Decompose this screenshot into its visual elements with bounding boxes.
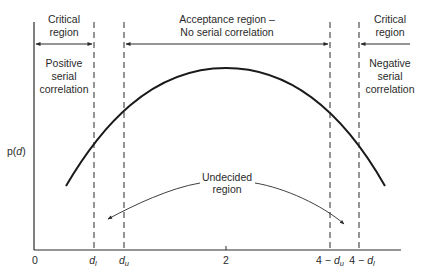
tick-label-two: 2 xyxy=(223,254,229,266)
left-critical-title-2: region xyxy=(49,26,78,38)
tick-label-dl: dl xyxy=(89,254,97,268)
tick-label-du: du xyxy=(119,254,130,268)
left-critical-title-1: Critical xyxy=(48,13,80,25)
y-axis-label: p(d) xyxy=(7,145,26,157)
tick-label-zero: 0 xyxy=(32,254,38,266)
right-critical-desc-1: Negative xyxy=(369,57,411,69)
tick-label-4-dl: 4 − dl xyxy=(349,254,375,268)
right-critical-desc-3: correlation xyxy=(365,83,414,95)
undecided-arrow-right xyxy=(255,183,344,224)
right-critical-title-2: region xyxy=(375,26,404,38)
acceptance-title-2: No serial correlation xyxy=(180,26,274,38)
undecided-arrow-left xyxy=(108,183,200,219)
density-curve xyxy=(66,68,385,186)
right-critical-title-1: Critical xyxy=(374,13,406,25)
undecided-label-1: Undecided xyxy=(202,171,252,183)
tick-label-4-du: 4 − du xyxy=(316,254,345,268)
right-critical-desc-2: serial xyxy=(377,70,402,82)
left-critical-desc-2: serial xyxy=(51,70,76,82)
left-critical-desc-3: correlation xyxy=(39,83,88,95)
acceptance-title-1: Acceptance region – xyxy=(179,13,275,25)
undecided-label-2: region xyxy=(212,183,241,195)
durbin-watson-diagram: Critical region Positive serial correlat… xyxy=(0,0,422,278)
left-critical-desc-1: Positive xyxy=(46,57,83,69)
